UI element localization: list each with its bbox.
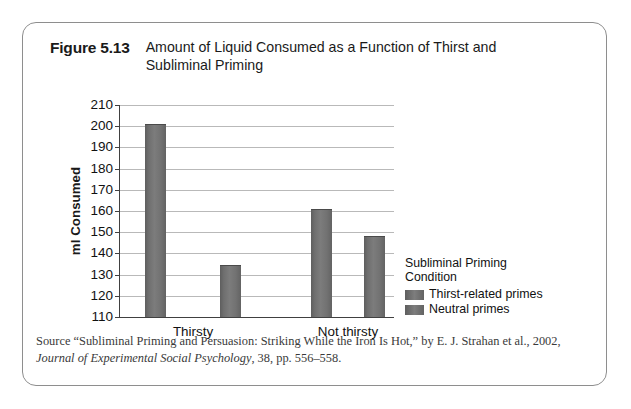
y-axis-tick	[115, 147, 120, 148]
y-axis-tick-label: 130	[90, 268, 113, 282]
y-axis-tick	[115, 253, 120, 254]
y-axis-tick-label: 110	[91, 310, 113, 324]
y-axis-tick	[115, 211, 120, 212]
y-axis-tick-label: 170	[90, 183, 113, 197]
legend-item: Thirst-related primes	[405, 288, 585, 301]
legend-title: Subliminal Priming Condition	[405, 257, 585, 284]
y-axis-tick	[115, 275, 120, 276]
legend-items: Thirst-related primesNeutral primes	[405, 288, 585, 316]
legend-item-label: Thirst-related primes	[429, 288, 543, 301]
source-tail: , 38, pp. 556–558.	[251, 351, 341, 365]
bar	[220, 265, 241, 317]
bar	[145, 124, 166, 317]
legend-swatch-icon	[405, 305, 424, 315]
y-axis-tick	[115, 296, 120, 297]
y-axis-title: ml Consumed	[68, 167, 83, 255]
y-axis-tick	[115, 169, 120, 170]
legend-item-label: Neutral primes	[429, 303, 510, 316]
source-journal-title: Journal of Experimental Social Psycholog…	[36, 351, 251, 365]
legend-title-line-2: Condition	[405, 271, 585, 285]
legend-title-line-1: Subliminal Priming	[405, 257, 585, 271]
y-axis-tick-label: 160	[90, 204, 113, 218]
bar	[364, 236, 385, 317]
figure-card: Figure 5.13 Amount of Liquid Consumed as…	[22, 22, 607, 386]
chart-legend: Subliminal Priming Condition Thirst-rela…	[405, 257, 585, 316]
y-axis-tick	[115, 126, 120, 127]
y-axis-tick-label: 150	[90, 225, 113, 239]
y-axis-tick-label: 180	[90, 162, 113, 176]
plot-area: 110120130140150160170180190200210 Thirst…	[119, 105, 394, 318]
y-axis-tick-label: 140	[90, 247, 113, 261]
y-axis-tick	[115, 190, 120, 191]
legend-item: Neutral primes	[405, 303, 585, 316]
source-note: Source “Subliminal Priming and Persuasio…	[36, 333, 586, 366]
y-axis-tick	[115, 232, 120, 233]
y-axis-tick-label: 190	[90, 141, 113, 155]
y-axis-tick-label: 120	[90, 289, 113, 303]
y-axis-tick-label: 210	[90, 98, 113, 112]
y-axis-tick	[115, 105, 120, 106]
bar	[311, 209, 332, 317]
y-axis-tick-label: 200	[90, 119, 113, 133]
source-lead: Source “Subliminal Priming and Persuasio…	[36, 334, 561, 348]
legend-swatch-icon	[405, 290, 424, 300]
gridline	[120, 105, 394, 106]
y-axis-tick	[115, 317, 120, 318]
